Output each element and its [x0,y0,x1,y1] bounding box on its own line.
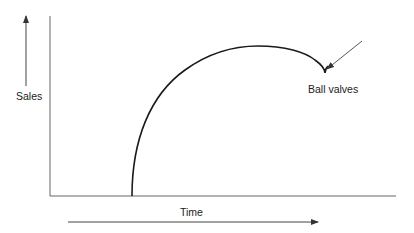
sales-curve [132,46,328,196]
y-axis-label: Sales [16,90,42,102]
x-axis-label: Time [180,206,203,218]
ball-valves-annotation: Ball valves [308,83,358,95]
ball-valves-pointer-arrow [327,41,362,69]
diagram-canvas [0,0,414,233]
